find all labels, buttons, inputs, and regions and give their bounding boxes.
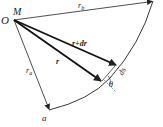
label-a: a xyxy=(42,113,47,123)
displacement-ds xyxy=(102,66,115,81)
label-r: r xyxy=(56,57,60,66)
label-ds: ds xyxy=(116,66,127,77)
path-integral-diagram: O M rb ra r r+dr ds θ a xyxy=(0,0,163,127)
label-ra: ra xyxy=(26,66,32,76)
label-origin: O xyxy=(1,14,9,26)
label-rb: rb xyxy=(78,1,84,11)
label-r-plus-dr: r+dr xyxy=(72,39,88,48)
label-theta: θ xyxy=(109,80,113,89)
label-point-m: M xyxy=(12,6,22,17)
